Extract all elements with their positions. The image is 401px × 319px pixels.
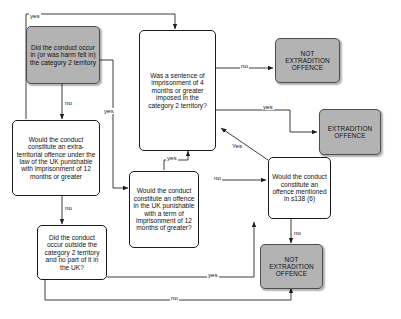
node-extra-territorial-offence[interactable]: Would the conduct constitute an extra-te… [12,120,100,196]
node-label: Was a sentence of imprisonment of 4 mont… [143,72,212,109]
edge-label-yes-s138-diagonal: Yes [231,143,243,149]
node-conduct-outside-category-2[interactable]: Did the conduct occur outside the catego… [37,225,107,280]
node-not-extradition-offence-bottom[interactable]: NOT EXTRADITION OFFENCE [260,244,323,289]
node-uk-offence-12-months[interactable]: Would the conduct constitute an offence … [129,171,199,248]
node-extradition-offence[interactable]: EXTRADITION OFFENCE [319,109,381,155]
node-label: Did the conduct occur in (or was harm fe… [30,44,96,66]
node-label: Did the conduct occur outside the catego… [41,234,103,271]
edge-label-yes-ukoffence-up: yes [166,155,178,161]
node-label: Would the conduct constitute an extra-te… [16,136,96,180]
node-label: NOT EXTRADITION OFFENCE [279,50,336,72]
node-label: Would the conduct constitute an offence … [133,187,195,231]
node-sentence-4-months[interactable]: Was a sentence of imprisonment of 4 mont… [139,30,216,151]
node-conduct-in-category-2[interactable]: Did the conduct occur in (or was harm fe… [26,26,100,84]
node-label: NOT EXTRADITION OFFENCE [264,256,319,278]
flowchart-canvas: Did the conduct occur in (or was harm fe… [0,0,401,319]
edge-label-no-outside: no [170,295,179,301]
edge-label-no-extraterritorial: no [64,205,73,211]
edge-label-no-sentence: no [240,63,249,69]
edge-label-no-ukoffence-right: no [213,175,222,181]
edge-label-yes-top-left: yes [29,13,41,19]
node-label: Would the conduct constitute an offence … [272,173,327,203]
node-not-extradition-offence-top[interactable]: NOT EXTRADITION OFFENCE [275,38,340,83]
edge-label-yes-conduct-in-cat2: yes [103,108,115,114]
edge-yes-sentence-to-extradition [216,110,317,132]
edge-label-no-conduct-in-cat2: no [64,100,73,106]
edge-yes-conduct-in-cat2 [100,60,128,188]
edge-yes-s138-to-sentence [221,128,268,160]
edge-label-yes-outside: yes [207,272,219,278]
edge-label-yes-sentence: yes [262,104,274,110]
node-label: EXTRADITION OFFENCE [323,125,377,139]
edge-no-outside-to-not-extradition [45,280,291,300]
node-s138-6-offence[interactable]: Would the conduct constitute an offence … [268,157,331,219]
edge-label-no-s138: no [293,230,302,236]
